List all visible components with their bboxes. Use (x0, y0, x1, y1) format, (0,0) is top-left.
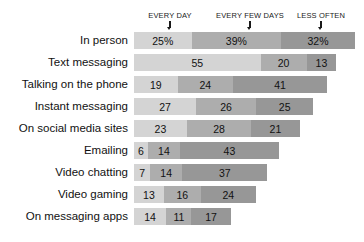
stacked-bar: 61443 (134, 142, 279, 159)
legend-item-2: EVERY FEW DAYS (204, 11, 296, 30)
legend-item-label: LESS OFTEN (286, 11, 356, 20)
stacked-bar: 272625 (134, 98, 313, 115)
bar-segment: 39% (192, 32, 282, 49)
bar-segment: 43 (180, 142, 279, 159)
bar-segment: 14 (148, 142, 180, 159)
bar-value-label: 14 (144, 211, 156, 223)
chart-rows: In person25%39%32%Text messaging552013Ta… (0, 31, 364, 229)
bar-value-label: 17 (205, 211, 217, 223)
bar-value-label: 6 (138, 145, 144, 157)
bar-value-label: 21 (270, 123, 282, 135)
stacked-bar: 71437 (134, 164, 267, 181)
bar-value-label: 13 (316, 57, 328, 69)
legend-item-label: EVERY DAY (137, 11, 203, 20)
bar-segment: 7 (134, 164, 150, 181)
stacked-bar: 25%39%32% (134, 32, 355, 49)
bar-value-label: 14 (158, 145, 170, 157)
bar-segment: 13 (134, 186, 164, 203)
stacked-bar: 232821 (134, 120, 300, 137)
bar-segment: 21 (251, 120, 299, 137)
chart-row: On messaging apps141117 (0, 207, 364, 229)
bar-segment: 55 (134, 54, 261, 71)
category-label: Emailing (0, 141, 128, 159)
stacked-bar: 131624 (134, 186, 256, 203)
category-label: Video chatting (0, 163, 128, 181)
chart-row: On social media sites232821 (0, 119, 364, 141)
chart-row: Video chatting71437 (0, 163, 364, 185)
bar-value-label: 24 (199, 79, 211, 91)
bar-segment: 28 (187, 120, 251, 137)
category-label: On messaging apps (0, 207, 128, 225)
bar-value-label: 11 (173, 211, 184, 223)
bar-value-label: 24 (222, 189, 234, 201)
chart-legend: EVERY DAYEVERY FEW DAYSLESS OFTEN (0, 0, 364, 30)
bar-segment: 23 (134, 120, 187, 137)
bar-value-label: 32% (307, 35, 328, 47)
bar-value-label: 43 (224, 145, 236, 157)
stacked-bar-chart: EVERY DAYEVERY FEW DAYSLESS OFTEN In per… (0, 0, 364, 242)
bar-segment: 14 (134, 208, 166, 225)
bar-segment: 13 (307, 54, 337, 71)
bar-value-label: 25% (152, 35, 173, 47)
bar-segment: 25% (134, 32, 192, 49)
category-label: Text messaging (0, 53, 128, 71)
stacked-bar: 552013 (134, 54, 336, 71)
chart-row: Emailing61443 (0, 141, 364, 163)
category-label: Talking on the phone (0, 75, 128, 93)
bar-segment: 17 (191, 208, 230, 225)
chart-row: In person25%39%32% (0, 31, 364, 53)
bar-value-label: 16 (176, 189, 188, 201)
bar-segment: 6 (134, 142, 148, 159)
bar-value-label: 7 (139, 167, 145, 179)
chart-row: Text messaging552013 (0, 53, 364, 75)
bar-value-label: 37 (219, 167, 231, 179)
chart-row: Talking on the phone192441 (0, 75, 364, 97)
category-label: Video gaming (0, 185, 128, 203)
bar-segment: 37 (182, 164, 267, 181)
bar-value-label: 14 (160, 167, 172, 179)
bar-value-label: 55 (191, 57, 203, 69)
bar-value-label: 28 (213, 123, 225, 135)
bar-value-label: 41 (274, 79, 286, 91)
bar-segment: 26 (196, 98, 256, 115)
bar-segment: 24 (178, 76, 233, 93)
legend-item-3: LESS OFTEN (286, 11, 356, 30)
bar-value-label: 20 (278, 57, 290, 69)
category-label: On social media sites (0, 119, 128, 137)
bar-segment: 27 (134, 98, 196, 115)
bar-segment: 16 (164, 186, 201, 203)
bar-segment: 20 (261, 54, 307, 71)
bar-value-label: 27 (159, 101, 171, 113)
bar-segment: 14 (150, 164, 182, 181)
bar-value-label: 13 (143, 189, 155, 201)
bar-value-label: 19 (150, 79, 162, 91)
chart-row: Video gaming131624 (0, 185, 364, 207)
category-label: Instant messaging (0, 97, 128, 115)
bar-value-label: 25 (279, 101, 291, 113)
bar-segment: 25 (256, 98, 314, 115)
bar-segment: 24 (201, 186, 256, 203)
bar-segment: 19 (134, 76, 178, 93)
bar-value-label: 39% (226, 35, 247, 47)
legend-item-label: EVERY FEW DAYS (204, 11, 296, 20)
stacked-bar: 192441 (134, 76, 327, 93)
legend-item-1: EVERY DAY (137, 11, 203, 30)
bar-segment: 11 (166, 208, 191, 225)
bar-segment: 41 (233, 76, 327, 93)
bar-value-label: 23 (155, 123, 167, 135)
stacked-bar: 141117 (134, 208, 231, 225)
down-arrow-icon (137, 20, 203, 30)
down-arrow-icon (286, 20, 356, 30)
bar-value-label: 26 (220, 101, 232, 113)
chart-row: Instant messaging272625 (0, 97, 364, 119)
down-arrow-icon (204, 20, 296, 30)
category-label: In person (0, 31, 128, 49)
bar-segment: 32% (281, 32, 355, 49)
